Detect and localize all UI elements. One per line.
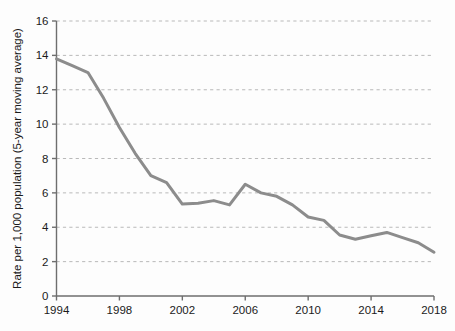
x-axis-tick-label: 2014	[358, 304, 384, 316]
chart-background	[0, 0, 455, 331]
x-axis-tick-label: 2006	[232, 304, 258, 316]
line-chart: 0246810121416 19941998200220062010201420…	[0, 0, 455, 331]
y-axis-tick-label: 6	[42, 187, 48, 199]
y-axis-tick-label: 16	[36, 15, 49, 27]
y-axis-title: Rate per 1,000 population (5-year moving…	[11, 28, 23, 289]
y-axis-tick-label: 8	[42, 153, 48, 165]
y-axis-tick-label: 10	[36, 118, 49, 130]
chart-canvas: 0246810121416 19941998200220062010201420…	[0, 0, 455, 331]
y-axis-tick-label: 12	[36, 84, 49, 96]
x-axis-tick-label: 2018	[421, 304, 447, 316]
x-axis-tick-label: 2010	[295, 304, 321, 316]
x-axis-tick-label: 1998	[107, 304, 133, 316]
y-axis-tick-label: 0	[42, 290, 48, 302]
x-axis-tick-label: 1994	[44, 304, 70, 316]
x-axis-tick-label: 2002	[170, 304, 196, 316]
y-axis-tick-label: 4	[42, 221, 49, 233]
y-axis-tick-label: 2	[42, 256, 48, 268]
y-axis-tick-label: 14	[36, 49, 49, 61]
